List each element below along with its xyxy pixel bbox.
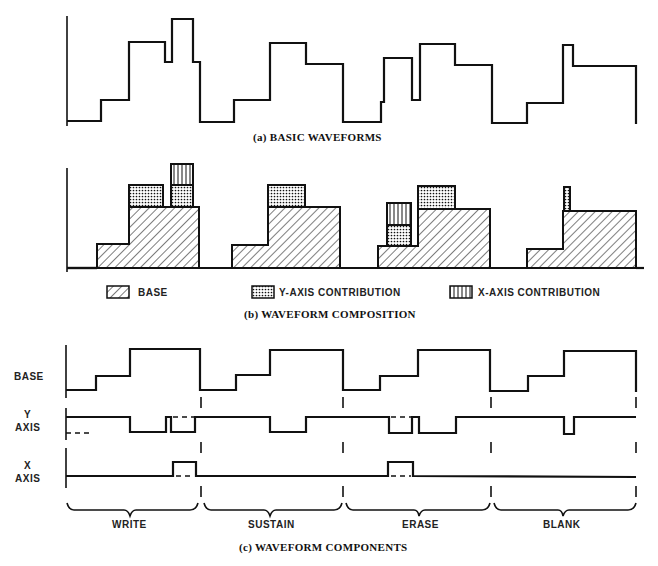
base-component-wave bbox=[66, 349, 636, 392]
panel-b-waveform-composition: BASE Y-AXIS CONTRIBUTION X-AXIS CONTRIBU… bbox=[67, 164, 644, 321]
row-label-y-1: Y bbox=[24, 409, 31, 420]
y-contribution-block bbox=[268, 185, 305, 207]
panel-c-caption: (c) WAVEFORM COMPONENTS bbox=[239, 541, 407, 554]
y-contribution-block bbox=[418, 186, 455, 209]
panel-b-caption: (b) WAVEFORM COMPOSITION bbox=[244, 308, 416, 321]
phase-boundaries bbox=[201, 397, 636, 497]
phase-label-blank: BLANK bbox=[543, 519, 581, 530]
base-segment-sustain bbox=[232, 207, 340, 268]
y-contribution-block bbox=[564, 187, 570, 211]
panel-c-waveform-components: BASE Y AXIS X AXIS bbox=[14, 345, 636, 554]
x-contribution-block bbox=[387, 203, 411, 225]
base-segments bbox=[97, 207, 636, 268]
hatch-swatch-icon bbox=[107, 286, 129, 298]
base-segment-write bbox=[97, 207, 199, 268]
y-contribution-block bbox=[171, 185, 193, 207]
legend-label-x-axis: X-AXIS CONTRIBUTION bbox=[478, 287, 600, 298]
phase-label-sustain: SUSTAIN bbox=[248, 519, 295, 530]
legend-label-base: BASE bbox=[138, 287, 168, 298]
row-label-base: BASE bbox=[14, 371, 44, 382]
base-segment-blank bbox=[527, 211, 636, 268]
y-contribution-block bbox=[129, 185, 163, 207]
basic-waveform bbox=[67, 19, 636, 124]
brace-sustain bbox=[204, 503, 342, 516]
brace-erase bbox=[346, 503, 490, 516]
y-component-wave bbox=[66, 417, 636, 434]
legend-item-y-axis: Y-AXIS CONTRIBUTION bbox=[252, 286, 401, 298]
row-label-x-2: AXIS bbox=[15, 473, 40, 484]
y-contribution-block bbox=[387, 225, 411, 246]
x-component-wave bbox=[66, 462, 636, 477]
x-contribution-block bbox=[171, 164, 193, 185]
legend-item-base: BASE bbox=[107, 286, 168, 298]
legend: BASE Y-AXIS CONTRIBUTION X-AXIS CONTRIBU… bbox=[107, 286, 600, 298]
panel-a-caption: (a) BASIC WAVEFORMS bbox=[253, 131, 382, 144]
phase-label-write: WRITE bbox=[112, 519, 147, 530]
brace-write bbox=[67, 503, 198, 516]
waveform-figure: (a) BASIC WAVEFORMS bbox=[0, 0, 658, 566]
legend-label-y-axis: Y-AXIS CONTRIBUTION bbox=[279, 287, 401, 298]
phase-label-erase: ERASE bbox=[402, 519, 439, 530]
legend-item-x-axis: X-AXIS CONTRIBUTION bbox=[450, 286, 600, 298]
stipple-swatch-icon bbox=[252, 286, 274, 298]
vertical-lines-swatch-icon bbox=[450, 286, 472, 298]
phase-braces bbox=[67, 503, 636, 516]
row-label-y-2: AXIS bbox=[15, 422, 40, 433]
panel-a-basic-waveforms: (a) BASIC WAVEFORMS bbox=[67, 16, 636, 144]
brace-blank bbox=[494, 503, 636, 516]
row-label-x-1: X bbox=[24, 460, 31, 471]
